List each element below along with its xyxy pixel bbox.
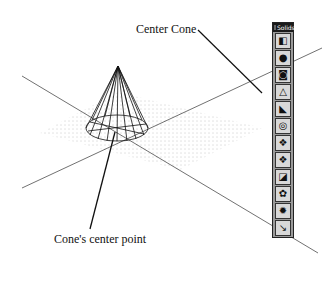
label-center-cone: Center Cone — [136, 22, 196, 37]
setup-icon: ↘ — [279, 223, 287, 233]
cone-button[interactable]: △ — [275, 84, 291, 100]
extrude-button[interactable]: ❖ — [275, 135, 291, 151]
interference-icon: ✹ — [279, 206, 287, 216]
solids-toolbar: Solids ◧ ● ◙ △ ◣ ◎ ❖ ❖ ◪ ✿ ✹ ↘ — [272, 22, 294, 238]
slice-button[interactable]: ◪ — [275, 169, 291, 185]
extrude-icon: ❖ — [279, 138, 288, 148]
box-icon: ◧ — [278, 36, 287, 46]
torus-button[interactable]: ◎ — [275, 118, 291, 134]
section-button[interactable]: ✿ — [275, 186, 291, 202]
box-button[interactable]: ◧ — [275, 33, 291, 49]
label-center-point: Cone's center point — [54, 232, 146, 247]
cylinder-icon: ◙ — [278, 70, 288, 80]
wedge-icon: ◣ — [279, 104, 287, 114]
interference-button[interactable]: ✹ — [275, 203, 291, 219]
grid-plane — [40, 92, 262, 170]
sphere-button[interactable]: ● — [275, 50, 291, 66]
cylinder-button[interactable]: ◙ — [275, 67, 291, 83]
toolbar-titlebar[interactable]: Solids — [273, 23, 293, 32]
toolbar-title: Solids — [277, 23, 295, 32]
torus-icon: ◎ — [279, 121, 288, 131]
leader-center-cone — [198, 30, 262, 93]
revolve-icon: ❖ — [279, 155, 288, 165]
revolve-button[interactable]: ❖ — [275, 152, 291, 168]
setup-button[interactable]: ↘ — [275, 220, 291, 236]
sphere-icon: ● — [279, 53, 288, 63]
toolbar-close-button[interactable] — [274, 25, 276, 30]
section-icon: ✿ — [279, 189, 287, 199]
wedge-button[interactable]: ◣ — [275, 101, 291, 117]
slice-icon: ◪ — [278, 172, 287, 182]
cone-icon: △ — [279, 87, 287, 97]
